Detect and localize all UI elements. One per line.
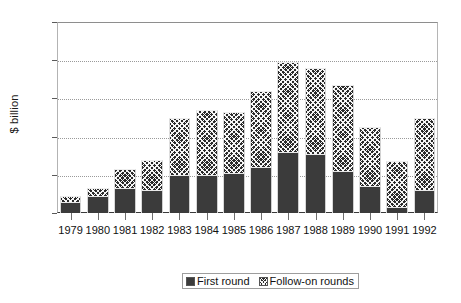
bar-segment-follow-on-rounds bbox=[250, 91, 272, 167]
x-tick-mark bbox=[152, 213, 153, 220]
x-tick-mark bbox=[343, 213, 344, 220]
x-tick-mark bbox=[397, 213, 398, 220]
bar-group-1989 bbox=[332, 85, 354, 213]
x-tick-mark bbox=[234, 213, 235, 220]
bar-segment-first-round bbox=[60, 202, 82, 213]
x-tick-mark bbox=[316, 213, 317, 220]
bar-group-1990 bbox=[359, 127, 381, 213]
x-tick-mark bbox=[261, 213, 262, 220]
bar-segment-follow-on-rounds bbox=[359, 127, 381, 186]
bar-group-1986 bbox=[250, 91, 272, 213]
bar-segment-first-round bbox=[277, 152, 299, 213]
bar-segment-follow-on-rounds bbox=[196, 110, 218, 175]
bar-segment-follow-on-rounds bbox=[305, 68, 327, 154]
bar-group-1980 bbox=[87, 188, 109, 213]
bar-segment-first-round bbox=[223, 173, 245, 213]
x-tick-mark bbox=[179, 213, 180, 220]
legend-label: First round bbox=[197, 275, 250, 287]
bar-segment-first-round bbox=[359, 186, 381, 213]
x-tick-mark bbox=[125, 213, 126, 220]
bar-group-1987 bbox=[277, 62, 299, 213]
bar-group-1982 bbox=[141, 160, 163, 213]
legend-entry-follow-on-rounds: Follow-on rounds bbox=[259, 275, 354, 287]
bar-group-1988 bbox=[305, 68, 327, 213]
bar-series-layer bbox=[57, 22, 438, 213]
bar-group-1984 bbox=[196, 110, 218, 213]
x-tick-mark bbox=[424, 213, 425, 220]
y-axis-title: $ billion bbox=[8, 69, 20, 159]
legend-swatch-icon bbox=[186, 277, 195, 286]
x-tick-mark bbox=[98, 213, 99, 220]
x-tick-mark bbox=[207, 213, 208, 220]
legend-label: Follow-on rounds bbox=[270, 275, 354, 287]
bar-segment-first-round bbox=[332, 171, 354, 213]
x-tick-mark bbox=[370, 213, 371, 220]
bar-group-1979 bbox=[60, 196, 82, 213]
bar-segment-first-round bbox=[250, 167, 272, 213]
bar-segment-first-round bbox=[169, 175, 191, 213]
bar-segment-follow-on-rounds bbox=[223, 112, 245, 173]
bar-group-1992 bbox=[414, 118, 436, 214]
bar-segment-follow-on-rounds bbox=[386, 161, 408, 207]
bar-segment-first-round bbox=[141, 190, 163, 213]
legend-swatch-icon bbox=[259, 277, 268, 286]
chart-container: $ billion 012345 19791980198119821983198… bbox=[0, 0, 461, 303]
bar-segment-follow-on-rounds bbox=[277, 62, 299, 152]
bar-segment-first-round bbox=[87, 196, 109, 213]
bar-group-1991 bbox=[386, 161, 408, 213]
bar-segment-follow-on-rounds bbox=[114, 169, 136, 188]
x-tick-mark bbox=[288, 213, 289, 220]
bar-segment-first-round bbox=[114, 188, 136, 213]
x-tick-label-1992: 1992 bbox=[404, 224, 444, 236]
bar-segment-follow-on-rounds bbox=[60, 196, 82, 202]
chart-legend: First roundFollow-on rounds bbox=[182, 273, 359, 289]
bar-segment-follow-on-rounds bbox=[141, 160, 163, 191]
bar-group-1985 bbox=[223, 112, 245, 213]
bar-segment-follow-on-rounds bbox=[414, 118, 436, 191]
bar-segment-first-round bbox=[414, 190, 436, 213]
bar-segment-follow-on-rounds bbox=[87, 188, 109, 196]
legend-entry-first-round: First round bbox=[186, 275, 250, 287]
bar-segment-follow-on-rounds bbox=[332, 85, 354, 171]
x-tick-mark bbox=[71, 213, 72, 220]
bar-segment-first-round bbox=[305, 154, 327, 213]
y-tick-mark bbox=[52, 213, 57, 214]
bar-segment-first-round bbox=[196, 175, 218, 213]
bar-segment-follow-on-rounds bbox=[169, 118, 191, 175]
bar-group-1983 bbox=[169, 118, 191, 214]
bar-group-1981 bbox=[114, 169, 136, 213]
